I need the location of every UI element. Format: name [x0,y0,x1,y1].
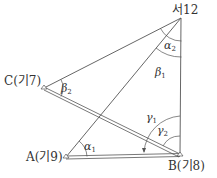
label-point-a: A(기9) [25,150,63,164]
edge-top-b [180,18,181,155]
arrow-gamma1 [142,148,146,153]
label-alpha2: α2 [164,39,176,53]
label-beta1: β1 [154,66,166,80]
label-beta2: β2 [60,82,72,96]
label-gamma2: γ2 [157,124,168,138]
triangulation-diagram: 서12 C(기7) A(기9) B(기8) α2 β1 β2 α1 γ1 γ2 [0,0,217,178]
edge-c-b-double [44,87,180,157]
label-point-b: B(기8) [168,159,205,173]
label-gamma1: γ1 [146,111,157,125]
label-alpha1: α1 [84,140,96,154]
label-top-point: 서12 [172,3,198,17]
edge-a-b-double [66,154,180,160]
label-point-c: C(기7) [4,74,41,88]
